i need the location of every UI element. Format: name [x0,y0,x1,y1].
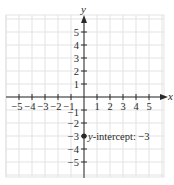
y-tick-label: −2 [68,118,79,129]
y-tick-label: 2 [74,66,79,77]
y-intercept-point [81,133,86,138]
y-tick-label: 3 [74,53,79,64]
x-tick-label: −4 [24,101,36,112]
x-tick-label: 3 [120,101,125,112]
x-tick-label: 4 [133,101,139,112]
y-tick-label: 5 [74,27,79,38]
axes [6,15,168,178]
y-tick-label: −4 [68,144,80,155]
y-axis-label: y [80,3,86,15]
y-tick-label: −3 [68,131,79,142]
y-tick-label: −1 [68,107,79,118]
y-tick-label: 1 [74,79,79,90]
x-tick-label: −2 [50,101,61,112]
x-tick-label: 2 [107,101,112,112]
x-tick-label: 5 [146,101,151,112]
data-points [81,133,86,138]
y-tick-label: 4 [74,40,80,51]
x-tick-label: −3 [37,101,48,112]
x-tick-label: 1 [94,101,99,112]
x-tick-label: −5 [11,101,22,112]
grid [6,15,164,177]
y-tick-label: −5 [68,157,79,168]
x-axis-label: x [167,90,173,102]
coordinate-plane: −5−4−3−2−112345 −5−4−3−2−112345 x y y-in… [0,0,174,185]
annotation-text: -intercept: −3 [93,131,150,142]
grid-border [6,15,164,177]
y-intercept-annotation: y-intercept: −3 [87,131,150,142]
